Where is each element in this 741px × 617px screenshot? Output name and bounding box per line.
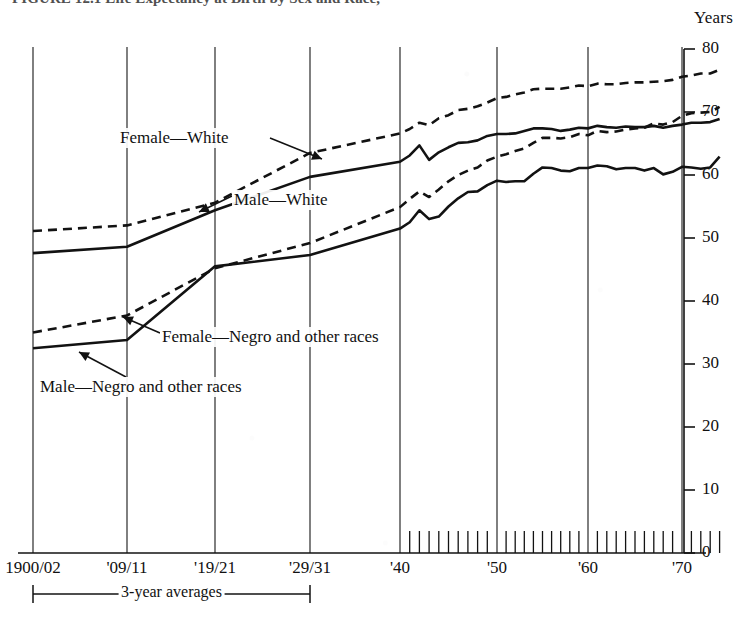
series-label-male-white: Male—White: [232, 190, 329, 210]
y-tick-label: 60: [702, 164, 719, 184]
figure-root: FIGURE 12.1 Life Expectancy at Birth by …: [0, 0, 741, 617]
x-tick-label: 1900/02: [5, 558, 61, 578]
x-tick-label: '50: [487, 558, 507, 578]
y-tick-label: 20: [702, 416, 719, 436]
x-tick-label: '40: [390, 558, 410, 578]
x-tick-label: '29/31: [289, 558, 331, 578]
vertical-gridlines: [33, 47, 682, 553]
y-tick-label: 70: [702, 101, 719, 121]
x-tick-label: '60: [578, 558, 598, 578]
annual-tick-marks: [410, 531, 720, 553]
x-tick-label: '09/11: [106, 558, 147, 578]
data-series-group: [33, 70, 720, 348]
y-tick-label: 40: [702, 290, 719, 310]
chart-plot-area: [0, 0, 741, 617]
series-line: [33, 157, 720, 349]
three-year-averages-caption: 3-year averages: [118, 583, 225, 601]
y-tick-label: 50: [702, 227, 719, 247]
series-label-male-negro-and-other-races: Male—Negro and other races: [38, 377, 244, 397]
series-line: [33, 70, 720, 231]
x-tick-label: '70: [672, 558, 692, 578]
series-label-female-negro-and-other-races: Female—Negro and other races: [160, 327, 381, 347]
y-tick-label: 80: [702, 38, 719, 58]
x-tick-label: '19/21: [194, 558, 236, 578]
y-tick-label: 10: [702, 479, 719, 499]
y-tick-label: 30: [702, 353, 719, 373]
series-label-female-white: Female—White: [118, 128, 231, 148]
y-tick-label: 0: [702, 542, 711, 562]
